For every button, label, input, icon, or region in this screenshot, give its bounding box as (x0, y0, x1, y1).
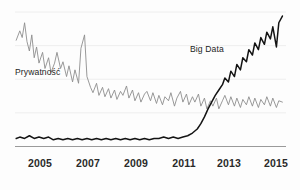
x-tick-2015: 2015 (256, 157, 296, 169)
series-annotation-bigdata: Big Data (190, 44, 224, 54)
series-line-bigdata (16, 16, 282, 140)
x-tick-2009: 2009 (116, 157, 156, 169)
gridlines-group (15, 12, 286, 113)
series-annotation-privacy: Prywatność (15, 67, 60, 77)
x-tick-2011: 2011 (164, 157, 204, 169)
x-tick-2005: 2005 (20, 157, 60, 169)
x-tick-2013: 2013 (209, 157, 249, 169)
trends-comparison-chart: Prywatność Big Data 2005 2007 2009 2011 … (0, 0, 300, 190)
x-tick-2007: 2007 (68, 157, 108, 169)
series-line-privacy (16, 23, 282, 109)
